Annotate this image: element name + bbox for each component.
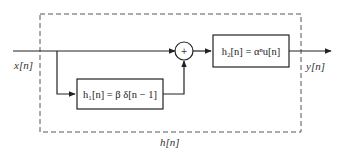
h2-block: h₂[n] = αⁿu[n]: [213, 35, 289, 67]
system-label: h[n]: [160, 136, 180, 148]
adder: +: [175, 42, 193, 60]
branch-line: [57, 51, 75, 94]
h1-label: h₁[n] = β δ[n − 1]: [83, 89, 157, 100]
h1-block: h₁[n] = β δ[n − 1]: [77, 79, 163, 109]
system-boundary: [40, 14, 301, 132]
h2-label: h₂[n] = αⁿu[n]: [222, 46, 281, 57]
plus-icon: +: [181, 47, 188, 56]
output-label: y[n]: [305, 60, 325, 72]
block-diagram: h₁[n] = β δ[n − 1] + h₂[n] = αⁿu[n] x[n]…: [0, 0, 340, 155]
h1-output-line: [163, 61, 184, 94]
input-label: x[n]: [13, 59, 33, 71]
